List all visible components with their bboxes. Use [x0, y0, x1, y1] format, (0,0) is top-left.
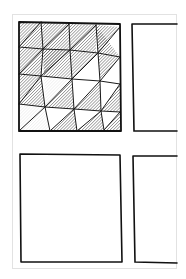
panel-top-right [132, 24, 177, 131]
sketch-drawing [0, 0, 186, 279]
panel-bottom-right [133, 156, 177, 263]
panel-top-left [19, 22, 121, 131]
panel-bottom-left [20, 154, 122, 262]
